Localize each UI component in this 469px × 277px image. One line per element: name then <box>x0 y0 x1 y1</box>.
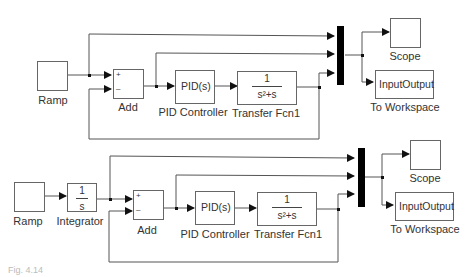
add-plus-sign-bottom: + <box>136 191 141 200</box>
transfer-fcn-label-bottom: Transfer Fcn1 <box>254 228 322 240</box>
add-label-top: Add <box>118 101 138 113</box>
pid-text-bottom: PID(s) <box>201 201 231 213</box>
to-workspace-label-top: To Workspace <box>370 101 440 113</box>
scope-block-top[interactable] <box>390 18 421 48</box>
mux-bottom <box>358 148 365 207</box>
add-minus-sign-bottom: – <box>136 205 140 214</box>
integrator-fraction: 1 s <box>76 185 88 212</box>
pid-text-top: PID(s) <box>181 80 211 92</box>
pid-label-top: PID Controller <box>158 106 227 118</box>
ramp-block-top[interactable] <box>37 61 68 91</box>
to-workspace-text-top: InputOutput <box>379 78 434 90</box>
transfer-fcn-fraction-bottom: 1 s²+s <box>272 194 302 221</box>
pid-label-bottom: PID Controller <box>180 228 249 240</box>
transfer-fcn-fraction-top: 1 s²+s <box>252 73 282 100</box>
add-label-bottom: Add <box>137 224 157 236</box>
ramp-label-top: Ramp <box>38 94 67 106</box>
add-plus-sign-top: + <box>116 70 121 79</box>
scope-label-top: Scope <box>389 50 420 62</box>
ramp-label-bottom: Ramp <box>13 215 42 227</box>
to-workspace-label-bottom: To Workspace <box>390 223 460 235</box>
add-minus-sign-top: – <box>116 84 120 93</box>
figure-caption: Fig. 4.14 <box>8 265 43 275</box>
integrator-label: Integrator <box>56 215 103 227</box>
transfer-fcn-label-top: Transfer Fcn1 <box>232 107 300 119</box>
mux-top <box>337 26 344 85</box>
scope-block-bottom[interactable] <box>410 140 441 170</box>
to-workspace-text-bottom: InputOutput <box>399 200 454 212</box>
ramp-block-bottom[interactable] <box>14 182 45 212</box>
scope-label-bottom: Scope <box>409 172 440 184</box>
